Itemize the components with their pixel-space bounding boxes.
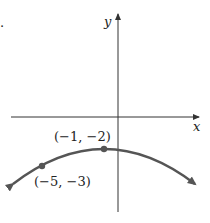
point-label: (−5, −3) — [34, 174, 91, 189]
point-neg5-neg3 — [39, 163, 45, 169]
x-axis-label: x — [193, 119, 201, 134]
vertex-label: (−1, −2) — [54, 129, 111, 144]
problem-mark: . — [0, 15, 4, 30]
parabola-graph: y x (−1, −2) (−5, −3) . — [0, 0, 210, 223]
vertex-point — [101, 146, 107, 152]
y-axis-label: y — [103, 14, 112, 29]
